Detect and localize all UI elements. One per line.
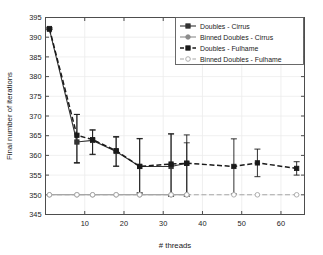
legend-marker-2 [186, 35, 191, 40]
y-tick-label: 345 [29, 210, 41, 219]
y-tick-label: 365 [29, 131, 41, 140]
figure-chart: 345350355360365370375380385390395 102030… [0, 0, 323, 255]
data-point-marker [114, 148, 118, 152]
y-axis-label: Final number of iterations [5, 72, 14, 160]
x-tick-label: 60 [277, 219, 285, 228]
data-point-marker [75, 193, 80, 198]
y-tick-label: 360 [29, 151, 41, 160]
x-tick-label: 40 [198, 219, 206, 228]
legend-label-4: Binned Doubles - Fulhame [200, 56, 282, 63]
legend-label-1: Doubles - Cirrus [200, 23, 250, 30]
data-point-marker [232, 164, 236, 168]
y-tick-label: 390 [29, 33, 41, 42]
legend-label-3: Doubles - Fulhame [200, 45, 258, 52]
x-tick-label: 30 [159, 219, 167, 228]
x-axis-label: # threads [159, 241, 192, 250]
legend-marker-1 [186, 24, 190, 28]
data-point-marker [90, 193, 95, 198]
data-point-marker [184, 193, 189, 198]
y-tick-label: 385 [29, 53, 41, 62]
y-tick-label: 375 [29, 92, 41, 101]
legend-marker-3 [186, 46, 190, 50]
data-point-marker [47, 26, 51, 30]
y-tick-label: 395 [29, 13, 41, 22]
legend-marker-4 [186, 57, 191, 62]
chart-canvas: 345350355360365370375380385390395 102030… [0, 0, 323, 255]
data-point-marker [137, 164, 141, 168]
data-point-marker [137, 193, 142, 198]
data-point-marker [114, 193, 119, 198]
y-tick-label: 370 [29, 112, 41, 121]
y-tick-label: 350 [29, 191, 41, 200]
data-point-marker [75, 133, 79, 137]
data-point-marker [47, 193, 52, 198]
legend-label-2: Binned Doubles - Cirrus [200, 34, 274, 41]
y-tick-label: 380 [29, 72, 41, 81]
x-tick-label: 50 [238, 219, 246, 228]
data-point-marker [255, 193, 260, 198]
data-point-marker [232, 193, 237, 198]
data-point-marker [169, 162, 173, 166]
data-point-marker [294, 193, 299, 198]
data-point-marker [294, 166, 298, 170]
data-point-marker [169, 193, 174, 198]
x-tick-label: 20 [120, 219, 128, 228]
data-point-marker [90, 137, 94, 141]
data-point-marker [255, 161, 259, 165]
legend: Doubles - CirrusBinned Doubles - CirrusD… [176, 18, 304, 65]
y-tick-label: 355 [29, 171, 41, 180]
data-point-marker [185, 161, 189, 165]
data-point-marker [75, 140, 79, 144]
x-tick-label: 10 [81, 219, 89, 228]
